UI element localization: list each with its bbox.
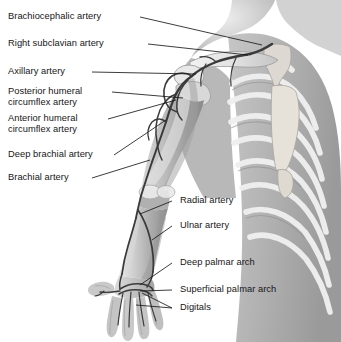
label-radial-artery: Radial artery xyxy=(180,195,233,206)
label-superficial-palmar-arch: Superficial palmar arch xyxy=(180,284,276,295)
label-text: Right subclavian artery xyxy=(8,38,104,48)
label-anterior-humeral-circumflex-artery: Anterior humeral circumflex artery xyxy=(8,113,78,135)
label-brachial-artery: Brachial artery xyxy=(8,172,69,183)
label-text-line2: circumflex artery xyxy=(8,97,82,108)
anatomical-figure: Brachiocephalic artery Right subclavian … xyxy=(0,0,341,342)
label-text: Brachial artery xyxy=(8,172,69,182)
label-text: Digitals xyxy=(180,302,211,312)
label-deep-palmar-arch: Deep palmar arch xyxy=(180,257,255,268)
label-text: Radial artery xyxy=(180,195,233,205)
label-text: Superficial palmar arch xyxy=(180,284,276,294)
label-text: Ulnar artery xyxy=(180,220,229,230)
forearm xyxy=(119,206,168,280)
label-text-line1: Anterior humeral xyxy=(8,113,78,123)
label-posterior-humeral-circumflex-artery: Posterior humeral circumflex artery xyxy=(8,86,82,108)
label-text-line1: Posterior humeral xyxy=(8,86,82,96)
label-ulnar-artery: Ulnar artery xyxy=(180,220,229,231)
label-deep-brachial-artery: Deep brachial artery xyxy=(8,149,93,160)
label-digitals: Digitals xyxy=(180,302,211,313)
label-axillary-artery: Axillary artery xyxy=(8,66,65,77)
label-text: Axillary artery xyxy=(8,66,65,76)
label-text: Deep palmar arch xyxy=(180,257,255,267)
label-text: Brachiocephalic artery xyxy=(8,11,101,21)
label-right-subclavian-artery: Right subclavian artery xyxy=(8,38,104,49)
leader-brachial-artery xyxy=(92,160,150,178)
label-text: Deep brachial artery xyxy=(8,149,93,159)
label-text-line2: circumflex artery xyxy=(8,124,78,135)
upper-limb-artery-illustration xyxy=(0,0,341,342)
label-brachiocephalic-artery: Brachiocephalic artery xyxy=(8,11,101,22)
